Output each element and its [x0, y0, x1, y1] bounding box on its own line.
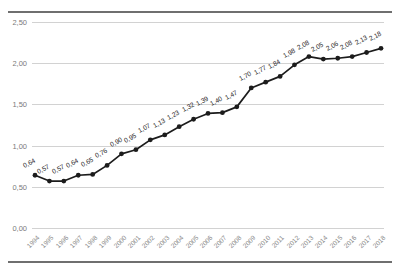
x-axis-tick-label: 2006: [198, 234, 213, 249]
x-axis-tick-label: 2010: [256, 234, 271, 249]
data-point-marker: [234, 104, 239, 109]
x-axis-tick-label: 2015: [328, 234, 343, 249]
chart-page: 0,000,501,001,502,002,50 0,640,570,570,6…: [0, 0, 400, 270]
data-point-marker: [90, 172, 95, 177]
data-point-marker: [321, 57, 326, 62]
data-point-marker: [47, 179, 52, 184]
data-point-marker: [61, 179, 66, 184]
data-point-marker: [350, 54, 355, 59]
bottom-divider: [8, 261, 392, 263]
x-axis-tick-label: 1997: [69, 234, 84, 249]
data-point-marker: [105, 163, 110, 168]
y-axis-tick-label: 2,00: [12, 59, 27, 68]
data-point-marker: [119, 151, 124, 156]
data-point-marker: [292, 62, 297, 67]
y-axis-tick-label: 0,50: [12, 182, 27, 191]
plot-area: 0,000,501,001,502,002,50 0,640,570,570,6…: [32, 22, 384, 228]
x-axis-tick-label: 1995: [40, 234, 55, 249]
x-axis-tick-label: 2008: [227, 234, 242, 249]
gridline: [32, 228, 384, 229]
x-axis-tick-label: 2017: [357, 234, 372, 249]
data-point-marker: [206, 111, 211, 116]
data-point-marker: [364, 50, 369, 55]
data-point-marker: [379, 46, 384, 51]
data-point-marker: [249, 86, 254, 91]
data-point-marker: [191, 117, 196, 122]
x-axis-tick-label: 2007: [213, 234, 228, 249]
data-point-marker: [177, 124, 182, 129]
x-axis-tick-label: 1996: [54, 234, 69, 249]
x-axis-tick-label: 2016: [342, 234, 357, 249]
top-divider: [8, 11, 392, 13]
x-axis-tick-label: 2013: [299, 234, 314, 249]
y-axis-tick-label: 0,00: [12, 224, 27, 233]
x-axis-tick-label: 1999: [97, 234, 112, 249]
x-axis-tick-label: 2004: [169, 234, 184, 249]
x-axis-tick-label: 2000: [112, 234, 127, 249]
x-axis-tick-label: 2002: [141, 234, 156, 249]
data-point-marker: [33, 173, 38, 178]
data-point-marker: [134, 147, 139, 152]
y-axis-tick-label: 2,50: [12, 18, 27, 27]
y-axis-tick-label: 1,50: [12, 100, 27, 109]
data-point-marker: [278, 74, 283, 79]
x-axis-tick-label: 2012: [285, 234, 300, 249]
x-axis-tick-label: 2018: [371, 234, 386, 249]
data-series-line: [32, 22, 384, 228]
y-axis-tick-label: 1,00: [12, 141, 27, 150]
data-point-marker: [335, 56, 340, 61]
data-point-marker: [263, 80, 268, 85]
x-axis-tick-label: 2003: [155, 234, 170, 249]
data-point-marker: [148, 137, 153, 142]
x-axis-tick-label: 2009: [242, 234, 257, 249]
data-point-marker: [220, 110, 225, 115]
data-point-marker: [307, 54, 312, 59]
x-axis-tick-label: 1994: [25, 234, 40, 249]
data-point-marker: [76, 173, 81, 178]
x-axis-tick-label: 2014: [314, 234, 329, 249]
x-axis-tick-label: 2005: [184, 234, 199, 249]
data-point-marker: [162, 132, 167, 137]
x-axis-tick-label: 1998: [83, 234, 98, 249]
x-axis-tick-label: 2001: [126, 234, 141, 249]
x-axis-tick-label: 2011: [270, 234, 285, 249]
